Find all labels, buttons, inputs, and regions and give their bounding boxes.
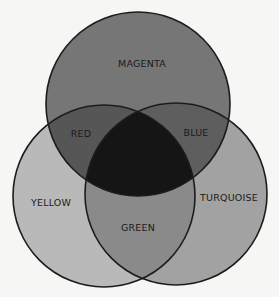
label-green: GREEN [121,222,155,233]
label-magenta: MAGENTA [118,58,166,69]
label-red: RED [71,128,92,139]
venn-diagram: MAGENTA RED BLUE YELLOW TURQUOISE GREEN [0,0,279,297]
label-blue: BLUE [183,127,208,138]
label-yellow: YELLOW [30,197,72,208]
label-turquoise: TURQUOISE [199,192,258,203]
